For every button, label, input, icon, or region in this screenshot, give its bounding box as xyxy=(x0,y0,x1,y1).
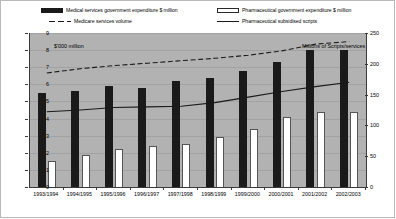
y-axis-left-tick xyxy=(25,67,28,68)
legend-row-1: Medical services government expenditure … xyxy=(1,5,396,16)
y-axis-left-tick-label: 4 xyxy=(33,116,49,122)
legend-item-medical-services-expenditure: Medical services government expenditure … xyxy=(41,5,178,16)
y-axis-left-tick xyxy=(25,84,28,85)
dashed-line-swatch-icon xyxy=(49,19,71,24)
y-axis-right-tick-label: 200 xyxy=(370,61,392,67)
chart-plot-region: $'000 million Millions of Scripts/servic… xyxy=(9,29,389,211)
plot-area: $'000 million Millions of Scripts/servic… xyxy=(29,33,367,188)
y-axis-right-tick-label: 150 xyxy=(370,92,392,98)
x-axis-tick xyxy=(63,187,64,190)
y-axis-left-tick-label: 0 xyxy=(33,184,49,190)
line-series-group xyxy=(30,33,366,187)
y-axis-right-tick xyxy=(365,95,368,96)
y-axis-right-tick xyxy=(365,125,368,126)
legend-label: Medicare services volume xyxy=(74,16,132,27)
y-axis-right-tick xyxy=(365,187,368,188)
y-axis-right-tick xyxy=(365,64,368,65)
chart-figure: Medical services government expenditure … xyxy=(0,0,395,218)
y-axis-right-tick-label: 250 xyxy=(370,30,392,36)
x-axis-tick xyxy=(130,187,131,190)
left-axis-unit-label: $'000 million xyxy=(54,43,84,49)
y-axis-right-tick-label: 0 xyxy=(370,184,392,190)
y-axis-left-tick xyxy=(25,187,28,188)
y-axis-left-tick-label: 1 xyxy=(33,167,49,173)
x-axis-tick xyxy=(96,187,97,190)
legend-item-medicare-services-volume: Medicare services volume xyxy=(49,16,132,27)
x-axis-tick xyxy=(231,187,232,190)
legend-label: Pharmaceutical government expenditure $ … xyxy=(242,5,351,16)
x-axis-tick xyxy=(197,187,198,190)
y-axis-left-tick xyxy=(25,33,28,34)
white-square-swatch-icon xyxy=(217,8,239,13)
y-axis-left-tick xyxy=(25,170,28,171)
y-axis-right-tick xyxy=(365,156,368,157)
y-axis-left-tick-label: 9 xyxy=(33,30,49,36)
legend-label: Medical services government expenditure … xyxy=(66,5,178,16)
right-axis-unit-label: Millions of Scripts/services xyxy=(302,43,365,49)
y-axis-left-tick-label: 7 xyxy=(33,64,49,70)
legend-item-pharmaceutical-expenditure: Pharmaceutical government expenditure $ … xyxy=(217,5,351,16)
solid-line-swatch-icon xyxy=(217,19,239,24)
x-axis-tick xyxy=(264,187,265,190)
y-axis-left-tick-label: 8 xyxy=(33,47,49,53)
y-axis-left-tick xyxy=(25,119,28,120)
legend-row-2: Medicare services volume Pharmaceutical … xyxy=(1,16,396,27)
legend-label: Pharmaceutical subsidised scripts xyxy=(242,16,317,27)
pharmaceutical-scripts-line xyxy=(47,82,349,112)
y-axis-left-tick xyxy=(25,136,28,137)
black-square-swatch-icon xyxy=(41,8,63,13)
legend-item-pharmaceutical-scripts: Pharmaceutical subsidised scripts xyxy=(217,16,317,27)
y-axis-left-tick xyxy=(25,50,28,51)
y-axis-left-tick xyxy=(25,101,28,102)
y-axis-left-tick-label: 2 xyxy=(33,150,49,156)
x-axis-tick-label: 2002/2003 xyxy=(327,191,369,198)
x-axis-tick xyxy=(163,187,164,190)
x-axis-tick xyxy=(331,187,332,190)
y-axis-left-tick-label: 6 xyxy=(33,81,49,87)
y-axis-right-tick-label: 100 xyxy=(370,122,392,128)
y-axis-left-tick xyxy=(25,153,28,154)
y-axis-right-tick xyxy=(365,33,368,34)
chart-legend: Medical services government expenditure … xyxy=(1,5,396,29)
x-axis-tick xyxy=(298,187,299,190)
y-axis-right-tick-label: 50 xyxy=(370,153,392,159)
y-axis-left-tick-label: 5 xyxy=(33,98,49,104)
y-axis-left-tick-label: 3 xyxy=(33,133,49,139)
